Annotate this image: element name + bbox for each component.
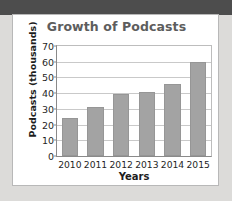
x-tick-label: 2011 <box>83 159 109 170</box>
y-tick-label: 30 <box>32 103 54 114</box>
plot-area: 010203040506070 201020112012201320142015 <box>56 45 212 157</box>
top-dark-band <box>0 0 232 15</box>
bar-slot: 2010 <box>57 46 83 156</box>
y-tick-label: 60 <box>32 56 54 67</box>
bar-2015 <box>190 62 206 156</box>
bar-slot: 2013 <box>134 46 160 156</box>
bar-2011 <box>87 107 103 157</box>
x-tick-label: 2013 <box>134 159 160 170</box>
y-tick-label: 0 <box>32 151 54 162</box>
x-tick-label: 2010 <box>57 159 83 170</box>
bar-series: 201020112012201320142015 <box>57 46 211 156</box>
chart-title: Growth of Podcasts <box>13 19 219 34</box>
bar-slot: 2011 <box>83 46 109 156</box>
y-tick-label: 40 <box>32 88 54 99</box>
y-tick-label: 10 <box>32 135 54 146</box>
bar-2012 <box>113 94 129 156</box>
x-tick-label: 2015 <box>185 159 211 170</box>
bar-slot: 2014 <box>160 46 186 156</box>
bar-2014 <box>164 84 180 156</box>
bar-2013 <box>139 92 155 156</box>
y-tick-label: 50 <box>32 72 54 83</box>
chart-card: Growth of Podcasts Podcasts (thousands) … <box>12 14 219 186</box>
bar-2010 <box>62 118 78 156</box>
y-tick-label: 70 <box>32 41 54 52</box>
y-tick-label: 20 <box>32 119 54 130</box>
x-tick-label: 2014 <box>160 159 186 170</box>
bar-slot: 2015 <box>185 46 211 156</box>
x-tick-label: 2012 <box>108 159 134 170</box>
bar-slot: 2012 <box>108 46 134 156</box>
x-axis-label: Years <box>56 171 212 182</box>
